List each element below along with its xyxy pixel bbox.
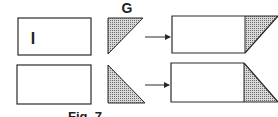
figure-diagram: G I Fig. 7: [0, 0, 278, 117]
figure-caption: Fig. 7: [68, 109, 102, 117]
left-rect-top: [18, 18, 91, 55]
label-i: I: [31, 30, 35, 47]
left-rect-bottom: [17, 65, 91, 104]
label-g: G: [122, 0, 133, 16]
triangle-top: [108, 18, 143, 54]
triangle-bottom: [108, 65, 145, 103]
